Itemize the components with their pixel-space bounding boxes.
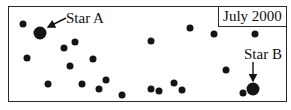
background-star bbox=[223, 67, 230, 74]
background-star bbox=[45, 81, 52, 88]
background-star bbox=[211, 31, 218, 38]
background-star bbox=[103, 77, 110, 84]
background-star bbox=[148, 86, 155, 93]
background-star bbox=[240, 90, 247, 97]
background-star bbox=[24, 55, 31, 62]
background-star bbox=[90, 56, 97, 63]
background-star bbox=[171, 80, 178, 87]
background-star bbox=[119, 92, 126, 99]
arrows bbox=[0, 0, 291, 110]
background-star bbox=[79, 81, 86, 88]
background-star bbox=[67, 63, 74, 70]
background-star bbox=[96, 86, 103, 93]
star-a-arrow-icon bbox=[48, 18, 66, 27]
background-star bbox=[20, 21, 27, 28]
background-star bbox=[156, 88, 163, 95]
background-star bbox=[61, 45, 68, 52]
background-star bbox=[72, 39, 79, 46]
background-star bbox=[179, 87, 186, 94]
background-star bbox=[252, 31, 259, 38]
background-star bbox=[148, 38, 155, 45]
background-star bbox=[187, 25, 194, 32]
